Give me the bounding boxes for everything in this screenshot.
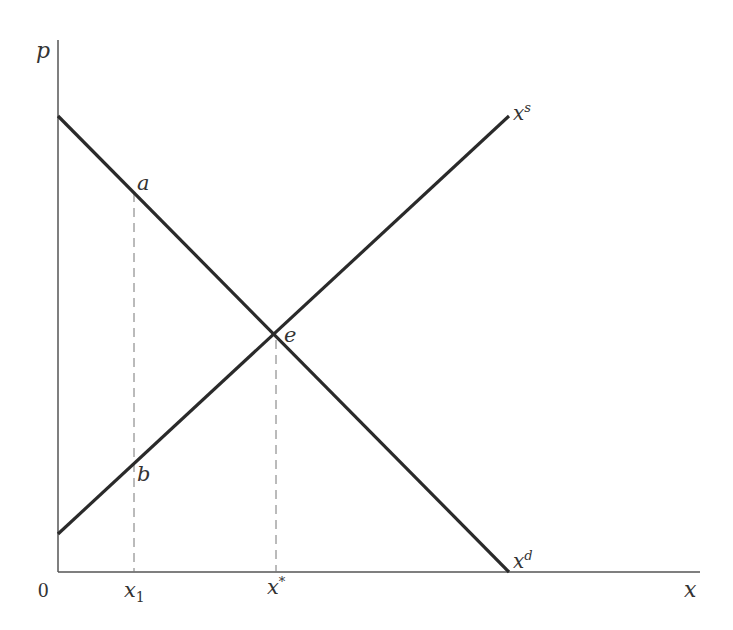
supply-label: xs xyxy=(513,100,531,125)
point-e-label: e xyxy=(284,323,296,347)
origin-label: 0 xyxy=(38,578,49,602)
point-b-label: b xyxy=(137,462,150,486)
supply-demand-diagram: p x 0 xs xd a b e x1 x* xyxy=(0,0,733,630)
point-a-label: a xyxy=(137,171,150,195)
x-axis-label: x xyxy=(684,577,697,602)
y-axis-label: p xyxy=(36,38,50,63)
xstar-tick-label: x* xyxy=(267,574,286,599)
demand-label: xd xyxy=(513,548,533,573)
x1-tick-label: x1 xyxy=(124,578,145,605)
